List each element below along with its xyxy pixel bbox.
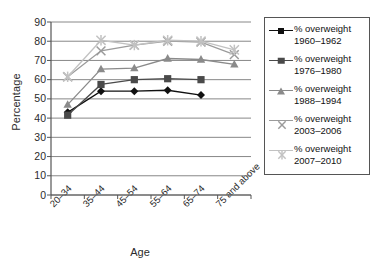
legend-item-4[interactable]: % overweight 2003–2006	[268, 113, 366, 139]
data-point-marker-star	[63, 72, 72, 82]
data-point-marker-square	[197, 76, 204, 83]
legend-item-3[interactable]: % overweight 1988–1994	[268, 83, 366, 109]
legend-label: % overweight 2003–2006	[294, 113, 351, 136]
legend-marker-x-icon	[268, 114, 294, 127]
legend-item-1[interactable]: % overweight 1960–1962	[268, 23, 366, 49]
series-3	[63, 54, 238, 108]
series-4	[63, 37, 238, 81]
legend-marker-diamond-icon	[268, 24, 294, 37]
data-point-marker-triangle	[163, 54, 171, 62]
series-2	[64, 75, 205, 119]
chart-legend: % overweight 1960–1962% overweight 1976–…	[264, 17, 370, 175]
legend-label: % overweight 2007–2010	[294, 143, 351, 166]
legend-marker-triangle-icon	[268, 84, 294, 97]
data-point-marker-diamond	[197, 91, 205, 99]
data-point-marker-diamond	[130, 87, 138, 95]
legend-item-2[interactable]: % overweight 1976–1980	[268, 53, 366, 79]
overweight-by-age-line-chart: Percentage 0102030405060708090 20–3435–4…	[0, 0, 378, 271]
legend-marker-square-icon	[268, 54, 294, 67]
legend-marker-star-icon	[268, 144, 294, 157]
series-5	[63, 35, 239, 82]
data-point-marker-diamond	[164, 86, 172, 94]
series-1	[64, 86, 205, 116]
series-line	[68, 41, 235, 77]
data-point-marker-star	[230, 45, 239, 55]
legend-label: % overweight 1976–1980	[294, 53, 351, 76]
data-point-marker-square	[131, 76, 138, 83]
legend-label: % overweight 1960–1962	[294, 23, 351, 46]
data-point-marker-square	[164, 75, 171, 82]
data-point-marker-square	[97, 81, 104, 88]
x-axis-title: Age	[105, 246, 175, 258]
series-line	[68, 59, 235, 105]
legend-item-5[interactable]: % overweight 2007–2010	[268, 143, 366, 169]
data-point-marker-square	[64, 112, 71, 119]
data-point-marker-diamond	[97, 87, 105, 95]
legend-label: % overweight 1988–1994	[294, 83, 351, 106]
